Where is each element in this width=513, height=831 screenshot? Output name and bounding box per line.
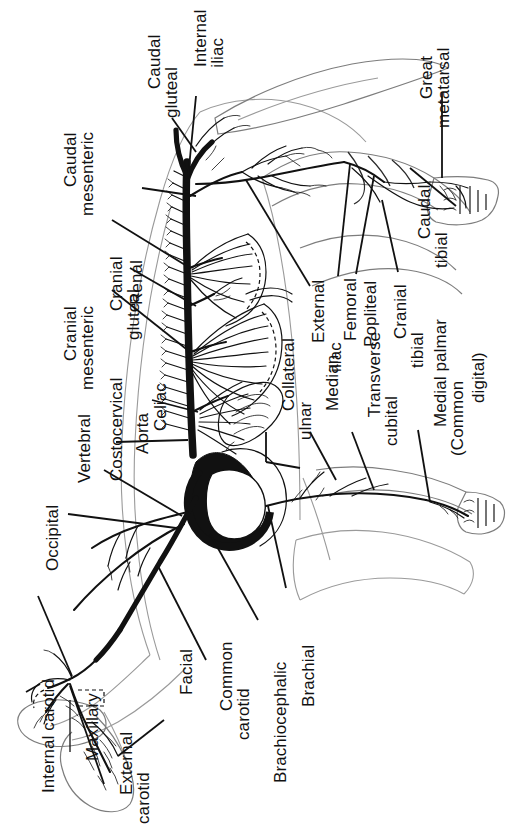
label-aorta: Aorta [116,413,170,482]
label-great-metatarsal: Greatmetatarsal [400,48,488,128]
caudal-mesenteric-fan [189,234,266,326]
label-medial-palmar-second-line: digital) [452,352,506,432]
label-caudal-tibial: Caudaltibial [398,185,486,268]
label-internal-iliac: Internaliliac [174,10,262,96]
fore-limb-outline [293,467,504,600]
label-external-carotid: Externalcarotid [100,732,188,824]
fore-limb-arteries [266,472,468,518]
heart-and-aortic-arch [188,442,287,548]
anatomical-figure: .out { fill:none; stroke:#9a9a9a; stroke… [0,0,513,831]
label-vertebral: Vertebral [58,414,112,512]
label-brachial: Brachial [282,645,336,736]
label-renal: Renal [110,260,164,334]
label-occipital: Occipital [26,505,80,600]
label-caudal-mesenteric: Caudalmesenteric [44,132,132,216]
